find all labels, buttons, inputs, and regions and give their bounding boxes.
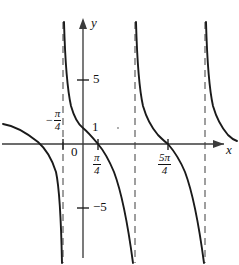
curve-left-branch (3, 124, 62, 263)
function-curves (3, 22, 237, 263)
fraction-pi-over-4: π4 (93, 152, 101, 176)
fraction-numerator: 5π (158, 152, 171, 164)
graph-canvas (0, 0, 239, 265)
y-axis-arrowhead (79, 18, 87, 29)
x-axis-arrowhead (213, 140, 224, 148)
x-axis-label: x (226, 143, 232, 156)
xtick-label-minus-pi-over-4: −π4 (46, 108, 61, 132)
fraction-minus-pi-over-4: π4 (54, 108, 62, 132)
curve-right-branch (136, 22, 204, 263)
fraction-denominator: 4 (93, 164, 101, 177)
curve-far-right-branch (206, 22, 237, 141)
math-graph-figure: y x 0 1 5 −5 −π4 π4 5π4 (0, 0, 239, 265)
stray-dot (117, 127, 119, 129)
xtick-label-pi-over-4: π4 (93, 152, 101, 176)
y-value-minus-5-label: −5 (93, 200, 107, 213)
asymptote-lines (63, 22, 205, 263)
y-value-1-label: 1 (92, 120, 99, 133)
fraction-denominator: 4 (54, 120, 62, 133)
y-axis-label: y (91, 16, 97, 29)
fraction-numerator: π (93, 152, 101, 164)
fraction-numerator: π (54, 108, 62, 120)
y-value-5-label: 5 (93, 72, 100, 85)
xtick-label-5pi-over-4: 5π4 (158, 152, 171, 176)
fraction-denominator: 4 (158, 164, 171, 177)
fraction-5pi-over-4: 5π4 (158, 152, 171, 176)
origin-label: 0 (71, 145, 78, 158)
minus-sign: − (46, 114, 53, 126)
